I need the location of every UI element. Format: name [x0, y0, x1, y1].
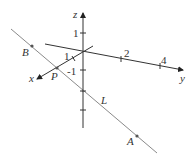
x-axis-label: x: [28, 72, 34, 84]
point-b: [30, 44, 33, 47]
z-tick-label-1: 1: [73, 27, 79, 39]
line-z-intersection: [82, 90, 84, 92]
y-tick-label-2: 2: [124, 47, 130, 59]
x-tick-label-1: 1: [64, 50, 70, 62]
point-a: [135, 134, 138, 137]
diagram-canvas: z 1 -1 y 2 4 x 1 B P A L: [0, 0, 192, 163]
point-b-label: B: [22, 46, 29, 58]
y-axis-label: y: [179, 72, 185, 84]
point-p-label: P: [50, 70, 58, 82]
z-tick-label-neg1: -1: [67, 65, 76, 77]
z-axis-label: z: [72, 8, 78, 20]
point-a-label: A: [126, 135, 134, 147]
y-tick-label-4: 4: [161, 54, 167, 66]
line-l-label: L: [100, 94, 107, 106]
